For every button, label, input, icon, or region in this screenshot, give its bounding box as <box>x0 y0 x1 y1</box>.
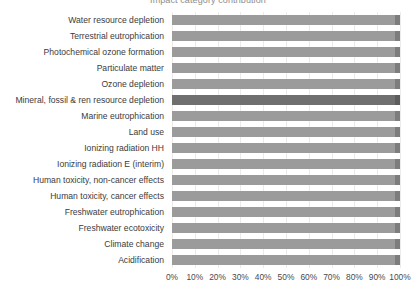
bar-row <box>172 92 400 108</box>
bar-segment-remainder <box>395 255 400 265</box>
x-axis-tick-label: 100% <box>389 272 410 282</box>
category-label: Marine eutrophication <box>81 108 164 124</box>
bar-segment-main <box>172 127 395 137</box>
bar-row <box>172 204 400 220</box>
bar <box>172 95 400 105</box>
bar-row <box>172 236 400 252</box>
bar-row <box>172 60 400 76</box>
bar-chart: Impact category contribution Water resou… <box>0 0 416 300</box>
bar-segment-main <box>172 255 395 265</box>
bar-row <box>172 76 400 92</box>
category-label: Freshwater ecotoxicity <box>79 220 165 236</box>
bar-segment-main <box>172 31 395 41</box>
bar <box>172 127 400 137</box>
bar <box>172 15 400 25</box>
bar-segment-main <box>172 95 395 105</box>
category-label-row: Human toxicity, non-cancer effects <box>0 172 168 188</box>
plot-wrapper: Water resource depletionTerrestrial eutr… <box>0 12 416 268</box>
category-label-row: Terrestrial eutrophication <box>0 28 168 44</box>
x-axis-tick-label: 70% <box>323 272 340 282</box>
bar-segment-remainder <box>395 95 400 105</box>
bar-segment-remainder <box>395 223 400 233</box>
category-label: Water resource depletion <box>68 12 164 28</box>
x-axis-tick-label: 20% <box>209 272 226 282</box>
bar-segment-main <box>172 159 395 169</box>
bar-segment-main <box>172 15 395 25</box>
x-axis-tick-label: 50% <box>278 272 295 282</box>
gridline <box>400 12 401 268</box>
x-axis-tick-label: 10% <box>186 272 203 282</box>
x-axis-tick-label: 80% <box>346 272 363 282</box>
category-label-row: Land use <box>0 124 168 140</box>
category-label: Freshwater eutrophication <box>65 204 164 220</box>
category-label: Ozone depletion <box>101 76 164 92</box>
category-label: Particulate matter <box>97 60 164 76</box>
bar-segment-remainder <box>395 239 400 249</box>
category-label-row: Water resource depletion <box>0 12 168 28</box>
category-label-row: Human toxicity, cancer effects <box>0 188 168 204</box>
category-label-row: Ionizing radiation E (interim) <box>0 156 168 172</box>
category-label-row: Marine eutrophication <box>0 108 168 124</box>
x-axis-tick-label: 30% <box>232 272 249 282</box>
bar-segment-main <box>172 111 395 121</box>
bar <box>172 79 400 89</box>
bar <box>172 159 400 169</box>
x-axis-tick-label: 40% <box>255 272 272 282</box>
bar-segment-remainder <box>395 207 400 217</box>
x-axis: 0%10%20%30%40%50%60%70%80%90%100% <box>172 272 400 290</box>
bar-segment-remainder <box>395 63 400 73</box>
bar-segment-remainder <box>395 143 400 153</box>
category-label-row: Climate change <box>0 236 168 252</box>
category-label: Mineral, fossil & ren resource depletion <box>15 92 164 108</box>
bar-segment-remainder <box>395 175 400 185</box>
bar-row <box>172 252 400 268</box>
category-label-row: Ozone depletion <box>0 76 168 92</box>
bar <box>172 239 400 249</box>
category-label-row: Photochemical ozone formation <box>0 44 168 60</box>
bar <box>172 31 400 41</box>
x-axis-tick-label: 0% <box>166 272 178 282</box>
bar-segment-main <box>172 239 395 249</box>
bar-segment-remainder <box>395 111 400 121</box>
bar <box>172 175 400 185</box>
bar-row <box>172 28 400 44</box>
bar-row <box>172 172 400 188</box>
bar-segment-remainder <box>395 79 400 89</box>
bar-segment-remainder <box>395 191 400 201</box>
bar <box>172 255 400 265</box>
bar-row <box>172 188 400 204</box>
chart-title: Impact category contribution <box>0 0 416 6</box>
bar <box>172 191 400 201</box>
bar <box>172 223 400 233</box>
bar-segment-main <box>172 79 395 89</box>
category-label: Land use <box>129 124 164 140</box>
bar <box>172 111 400 121</box>
bar-segment-remainder <box>395 15 400 25</box>
category-label-row: Freshwater ecotoxicity <box>0 220 168 236</box>
x-axis-tick-label: 90% <box>369 272 386 282</box>
bar <box>172 207 400 217</box>
category-label: Terrestrial eutrophication <box>70 28 164 44</box>
bar-segment-main <box>172 223 395 233</box>
category-label: Ionizing radiation HH <box>84 140 164 156</box>
bar-row <box>172 108 400 124</box>
bar-row <box>172 12 400 28</box>
bar <box>172 63 400 73</box>
category-label-row: Acidification <box>0 252 168 268</box>
bar-segment-main <box>172 143 395 153</box>
bar-segment-remainder <box>395 47 400 57</box>
bar <box>172 47 400 57</box>
category-label: Human toxicity, non-cancer effects <box>33 172 164 188</box>
category-label-row: Freshwater eutrophication <box>0 204 168 220</box>
x-axis-tick-label: 60% <box>300 272 317 282</box>
category-label-column: Water resource depletionTerrestrial eutr… <box>0 12 168 268</box>
bar-segment-main <box>172 191 395 201</box>
bar-row <box>172 156 400 172</box>
bar-segment-remainder <box>395 31 400 41</box>
category-label: Photochemical ozone formation <box>44 44 164 60</box>
category-label: Climate change <box>104 236 164 252</box>
plot-area <box>172 12 400 268</box>
bar-segment-main <box>172 175 395 185</box>
bar-segment-main <box>172 47 395 57</box>
bar-segment-main <box>172 63 395 73</box>
